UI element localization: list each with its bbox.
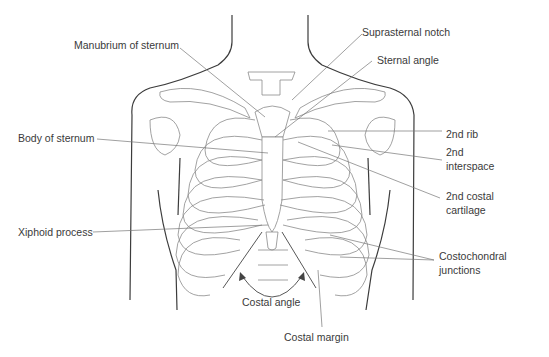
label-costochondral-junctions: Costochondral junctions (439, 249, 507, 277)
left-clavicle (160, 88, 250, 118)
sternum-body (262, 137, 283, 232)
thorax-diagram: Manubrium of sternum Suprasternal notch … (0, 0, 549, 357)
label-xiphoid-process: Xiphoid process (18, 225, 93, 239)
label-body-of-sternum: Body of sternum (18, 131, 94, 145)
label-costal-angle: Costal angle (242, 295, 300, 309)
label-2nd-rib: 2nd rib (446, 127, 478, 141)
label-suprasternal-notch: Suprasternal notch (362, 25, 450, 39)
xiphoid (266, 232, 278, 250)
label-2nd-costal-cartilage: 2nd costal cartilage (446, 189, 494, 217)
label-costal-margin: Costal margin (284, 330, 349, 344)
manubrium (255, 106, 290, 137)
left-ribs (176, 118, 265, 296)
label-sternal-angle: Sternal angle (377, 53, 439, 67)
label-2nd-interspace: 2nd interspace (446, 145, 494, 173)
right-ribs (280, 118, 369, 296)
label-manubrium: Manubrium of sternum (74, 38, 179, 52)
right-clavicle (295, 88, 385, 118)
